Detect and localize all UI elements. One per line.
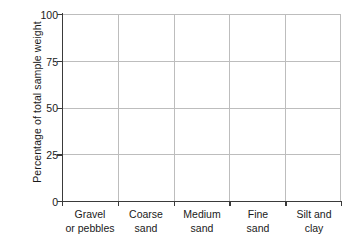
gridline-horizontal-25 bbox=[62, 154, 341, 155]
x-category-gravel-or-pebbles: Gravel or pebbles bbox=[62, 207, 118, 241]
x-tick-mark-5 bbox=[341, 201, 342, 206]
x-category-line1: Gravel bbox=[62, 207, 118, 221]
x-category-line2: sand bbox=[174, 221, 230, 235]
gridline-horizontal-75 bbox=[62, 61, 341, 62]
gridline-vertical-5 bbox=[340, 14, 341, 201]
x-category-fine-sand: Fine sand bbox=[230, 207, 286, 241]
x-category-medium-sand: Medium sand bbox=[174, 207, 230, 241]
x-category-coarse-sand: Coarse sand bbox=[118, 207, 174, 241]
gridline-horizontal-100 bbox=[62, 14, 341, 15]
x-category-line2: clay bbox=[286, 221, 342, 235]
x-tick-mark-4 bbox=[285, 201, 286, 206]
y-axis-line bbox=[62, 13, 63, 202]
x-category-silt-and-clay: Silt and clay bbox=[286, 207, 342, 241]
x-category-line1: Coarse bbox=[118, 207, 174, 221]
x-category-line1: Fine bbox=[230, 207, 286, 221]
gridline-horizontal-50 bbox=[62, 108, 341, 109]
gridline-vertical-2 bbox=[174, 14, 175, 201]
chart-figure: Percentage of total sample weight 100 75… bbox=[0, 0, 354, 245]
y-tick-label-50: 50 bbox=[32, 103, 58, 113]
x-tick-mark-1 bbox=[118, 201, 119, 206]
y-tick-label-0: 0 bbox=[32, 197, 58, 207]
x-tick-mark-0 bbox=[62, 201, 63, 206]
gridline-vertical-3 bbox=[229, 14, 230, 201]
gridline-vertical-4 bbox=[285, 14, 286, 201]
plot-area bbox=[62, 14, 341, 201]
x-category-line2: sand bbox=[118, 221, 174, 235]
y-axis-tick-labels: 100 75 50 25 0 bbox=[30, 0, 58, 245]
x-category-line1: Silt and bbox=[286, 207, 342, 221]
x-tick-mark-3 bbox=[229, 201, 230, 206]
y-tick-label-75: 75 bbox=[32, 57, 58, 67]
x-tick-mark-2 bbox=[174, 201, 175, 206]
x-axis-category-labels: Gravel or pebbles Coarse sand Medium san… bbox=[62, 207, 342, 241]
x-axis-line bbox=[62, 201, 342, 202]
gridline-vertical-1 bbox=[118, 14, 119, 201]
y-tick-label-100: 100 bbox=[32, 10, 58, 20]
x-category-line2: sand bbox=[230, 221, 286, 235]
y-tick-label-25: 25 bbox=[32, 150, 58, 160]
x-category-line2: or pebbles bbox=[62, 221, 118, 235]
x-category-line1: Medium bbox=[174, 207, 230, 221]
